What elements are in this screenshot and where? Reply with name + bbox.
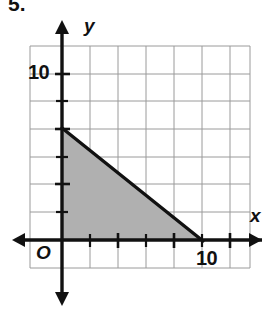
- x-axis-tick-label-10: 10: [196, 248, 217, 268]
- y-axis-tick-label-10: 10: [28, 62, 49, 82]
- origin-label: O: [36, 243, 51, 262]
- x-axis-label: x: [250, 206, 261, 225]
- graph-svg: [0, 0, 274, 313]
- y-axis-label: y: [84, 16, 95, 35]
- coordinate-plane-figure: 5.: [0, 0, 274, 313]
